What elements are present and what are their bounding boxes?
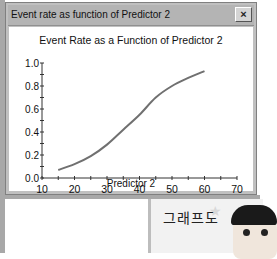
y-tick-label: 1.0 (25, 58, 39, 69)
character-eye-left (243, 229, 250, 236)
close-button[interactable]: × (235, 7, 252, 22)
y-tick-label: 0.6 (25, 104, 39, 115)
promo-banner: 그래프도 ★ (148, 199, 263, 253)
y-tick-label: 0.8 (25, 81, 39, 92)
chart-area: Event Rate as a Function of Predictor 2 … (9, 27, 253, 191)
line-plot: 0.00.20.40.60.81.010203040506070 (9, 27, 255, 193)
character-hair (231, 205, 277, 225)
window-title: Event rate as function of Predictor 2 (11, 9, 170, 20)
close-icon: × (240, 8, 246, 20)
star-icon: ★ (209, 203, 222, 219)
event-rate-curve (58, 71, 204, 170)
chart-window: Event rate as function of Predictor 2 × … (5, 2, 257, 195)
x-axis-label: Predictor 2 (9, 178, 253, 189)
y-tick-label: 0.2 (25, 150, 39, 161)
character-eye-right (261, 229, 268, 236)
y-tick-label: 0.4 (25, 127, 39, 138)
title-bar[interactable]: Event rate as function of Predictor 2 × (8, 5, 254, 26)
